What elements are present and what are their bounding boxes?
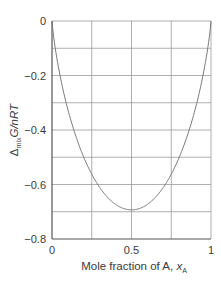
y-axis-title-sub: mix bbox=[15, 137, 22, 148]
y-tick-labels: 0−0.2−0.4−0.6−0.8 bbox=[24, 15, 46, 245]
x-axis-title-sub: A bbox=[182, 267, 187, 274]
y-tick-label: −0.4 bbox=[24, 124, 46, 136]
x-tick-label: 0 bbox=[49, 244, 55, 256]
y-tick-label: 0 bbox=[40, 15, 46, 27]
x-tick-labels: 00.51 bbox=[49, 244, 214, 256]
y-axis-title-rest: G/nRT bbox=[8, 103, 20, 138]
x-tick-label: 1 bbox=[208, 244, 214, 256]
y-tick-label: −0.2 bbox=[24, 70, 46, 82]
y-axis-title: ΔmixG/nRT bbox=[8, 103, 22, 156]
mixing-gibbs-energy-chart: 0−0.2−0.4−0.6−0.8 00.51 ΔmixG/nRT Mole f… bbox=[0, 0, 221, 284]
x-axis-title-main: Mole fraction of A, bbox=[81, 260, 176, 272]
x-axis-title: Mole fraction of A, xA bbox=[81, 260, 187, 274]
y-tick-label: −0.6 bbox=[24, 179, 46, 191]
y-tick-label: −0.8 bbox=[24, 233, 46, 245]
grid-lines bbox=[52, 21, 211, 239]
x-tick-label: 0.5 bbox=[124, 244, 139, 256]
